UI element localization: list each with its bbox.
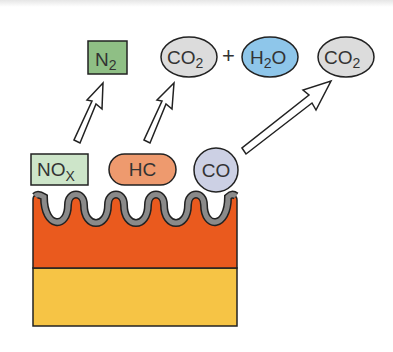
substrate-layer [33,268,237,326]
arrow-hc-to-co2-icon [144,83,174,143]
arrow-co-to-co2-icon [242,81,331,154]
co2-right-ellipse: CO2 [318,37,374,77]
co-circle: CO [194,148,238,192]
catalyst-diagram: N2 CO2 + H2O CO2 NOX HC CO [0,0,393,352]
plus-sign: + [222,43,235,68]
arrow-nox-to-n2-icon [74,83,103,143]
nox-box: NOX [31,154,88,185]
h2o-ellipse: H2O [242,37,298,77]
hc-pill: HC [109,154,176,185]
svg-text:CO: CO [202,160,231,181]
n2-box: N2 [88,41,127,74]
co2-left-ellipse: CO2 [161,37,217,77]
svg-text:HC: HC [129,159,156,180]
